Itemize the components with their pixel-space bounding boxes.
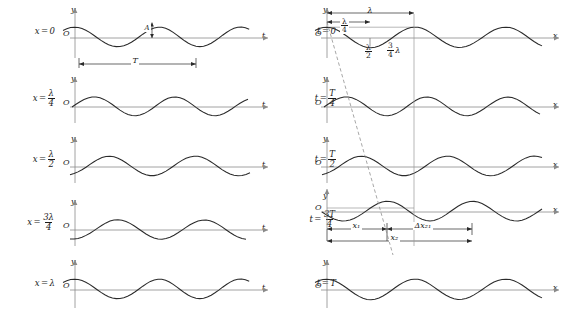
wave-svg-x-lambda-2 xyxy=(0,126,283,189)
wavelength-arrow-left xyxy=(327,11,332,15)
wave-svg-x-lambda-4 xyxy=(0,63,283,126)
wave-svg-x-lambda xyxy=(0,252,283,315)
right-column-y-vs-x: t=0 y O x xyxy=(283,0,566,315)
amplitude-label: A xyxy=(143,25,151,32)
left-column-y-vs-t: x=0 y O t A xyxy=(0,0,283,315)
fraction-numerator: 3 xyxy=(387,42,394,50)
waveform xyxy=(70,220,246,240)
wave-figure: x=0 y O t A xyxy=(0,0,566,315)
t-axis-arrow xyxy=(263,165,268,170)
lambda-symbol: λ xyxy=(395,46,400,55)
y-axis-arrow xyxy=(73,8,78,13)
quarter-wavelength-label: λ 4 xyxy=(340,15,349,34)
half-wavelength-label: λ 2 xyxy=(365,41,372,60)
amplitude-arrow-down xyxy=(150,34,154,38)
three-quarter-wavelength-label: 3 4 λ xyxy=(387,33,400,58)
wave-svg-x-0 xyxy=(0,0,283,63)
x2-label: x₂ xyxy=(389,234,400,242)
t-axis-arrow xyxy=(263,105,268,110)
fraction-numerator: λ xyxy=(365,44,372,52)
panel-x-lambda: x=λ y O t xyxy=(0,252,283,315)
fraction-denominator: 2 xyxy=(365,51,372,60)
x1-label: x₁ xyxy=(351,222,362,230)
t-axis-arrow xyxy=(263,228,268,233)
waveform xyxy=(70,156,250,176)
delta-x21-label: Δx₂₁ xyxy=(413,222,433,230)
y-axis-arrow xyxy=(73,200,78,205)
wavelength-arrow-right xyxy=(409,11,414,15)
panel-x-3lambda-4: x= 3λ 4 y O t xyxy=(0,189,283,252)
y-axis-arrow xyxy=(73,260,78,265)
panel-x-0: x=0 y O t A xyxy=(0,0,283,63)
y-axis-arrow xyxy=(73,77,78,82)
wave-svg-x-3lambda-4 xyxy=(0,189,283,252)
panel-t-0: t=0 y O x xyxy=(283,0,566,63)
waveform xyxy=(63,279,249,299)
t-axis-arrow xyxy=(263,36,268,41)
y-axis-arrow xyxy=(73,137,78,142)
quarter-wavelength-arrow-left xyxy=(327,20,332,24)
waveform xyxy=(72,97,248,116)
fraction-denominator: 4 xyxy=(341,25,348,34)
fraction-numerator: λ xyxy=(341,18,348,26)
quarter-wavelength-arrow-right xyxy=(365,20,370,24)
waveform xyxy=(63,27,249,46)
panel-x-lambda-4: x= λ 4 y O t xyxy=(0,63,283,126)
fraction-denominator: 4 xyxy=(387,50,394,59)
wavelength-dims-svg xyxy=(283,0,566,63)
panel-x-lambda-2: x= λ 2 y O t xyxy=(0,126,283,189)
t-axis-arrow xyxy=(263,288,268,293)
